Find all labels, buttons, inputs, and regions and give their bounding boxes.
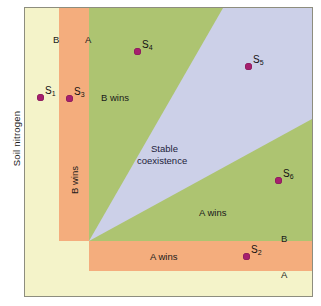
species-label-subscript: 2	[258, 249, 262, 256]
species-label-subscript: 4	[149, 44, 153, 51]
boundary-label-top-b: B	[53, 34, 59, 45]
plot-inner: B A B A B wins B wins Stable coexistence…	[25, 8, 312, 296]
species-label-text: S	[142, 39, 149, 50]
region-label-b-wins-green: B wins	[101, 92, 129, 103]
species-label-s4: S4	[142, 39, 153, 51]
region-label-a-wins-green: A wins	[199, 207, 226, 218]
species-label-subscript: 6	[290, 173, 294, 180]
species-label-text: S	[251, 244, 258, 255]
species-label-subscript: 1	[52, 90, 56, 97]
species-label-s2: S2	[251, 244, 262, 256]
species-marker-s2	[243, 253, 250, 260]
species-marker-s3	[66, 95, 73, 102]
species-label-text: S	[45, 85, 52, 96]
species-label-s1: S1	[45, 85, 56, 97]
species-label-text: S	[253, 54, 260, 65]
region-a-wins-band	[89, 241, 312, 271]
species-label-text: S	[74, 86, 81, 97]
species-label-text: S	[283, 168, 290, 179]
species-marker-s4	[134, 48, 141, 55]
species-marker-s5	[245, 63, 252, 70]
species-marker-s6	[275, 177, 282, 184]
boundary-label-right-a: A	[281, 269, 287, 280]
region-label-stable-coexistence-line1: Stable	[151, 143, 178, 154]
species-label-subscript: 3	[81, 91, 85, 98]
species-marker-s1	[37, 94, 44, 101]
y-axis-label: Soil nitrogen	[11, 79, 22, 199]
species-label-s5: S5	[253, 54, 264, 66]
figure-canvas: Soil nitrogen B A B A B w	[0, 0, 321, 306]
region-label-b-wins-vertical: B wins	[69, 166, 80, 194]
species-label-s6: S6	[283, 168, 294, 180]
region-label-a-wins-orange: A wins	[150, 251, 177, 262]
species-label-s3: S3	[74, 86, 85, 98]
boundary-label-top-a: A	[85, 34, 91, 45]
species-label-subscript: 5	[260, 59, 264, 66]
plot-area: B A B A B wins B wins Stable coexistence…	[24, 7, 313, 297]
boundary-label-right-b: B	[281, 233, 287, 244]
region-label-stable-coexistence-line2: coexistence	[137, 155, 187, 166]
